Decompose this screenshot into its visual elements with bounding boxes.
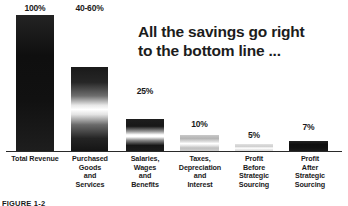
bar-body [16,15,54,152]
bar-column: 40-60% [71,0,108,152]
figure-caption: FIGURE 1-2 [2,199,122,206]
bar-body [126,119,164,152]
bar-column: 5% [235,0,273,152]
x-axis-line [6,151,342,152]
bar-fill [16,15,54,152]
category-label: ProfitAfterStrategicSourcing [277,155,343,189]
bar-fill [71,67,108,152]
category-label-line: Sourcing [277,181,343,190]
bar-value-label: 5% [235,130,273,140]
bar-body [180,135,219,152]
bar-fill [180,135,219,152]
slide-canvas: All the savings go right to the bottom l… [0,0,348,206]
bar-body [71,67,108,152]
bar-value-label: 40-60% [71,3,108,13]
bar-column: 10% [180,0,219,152]
bar-value-label: 100% [16,3,54,13]
bar-column: 7% [289,0,328,152]
bar-value-label: 25% [126,86,164,96]
x-axis-category-labels: Total RevenuePurchasedGoodsandServicesSa… [0,155,348,200]
chart-plot-area: 100%40-60%25%10%5%7% [0,0,348,152]
bar-fill [126,119,164,152]
bar-value-label: 10% [180,119,219,129]
bar-column: 25% [126,0,164,152]
bar-value-label: 7% [289,122,328,132]
bar-column: 100% [16,0,54,152]
